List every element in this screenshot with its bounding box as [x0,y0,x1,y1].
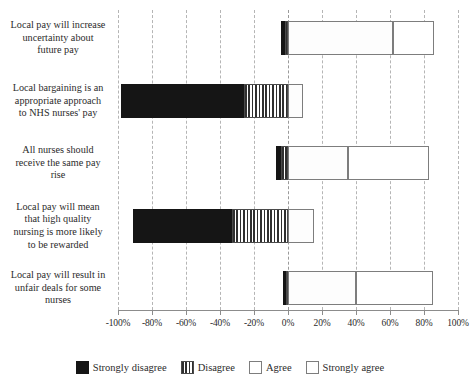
x-axis-tick [254,310,255,315]
x-axis-tick [458,310,459,315]
legend-item: Strongly disagree [76,361,167,374]
x-axis-tick [356,310,357,315]
bar-segment-agree [288,84,303,118]
x-axis-tick-label: 100% [435,318,474,328]
legend-item: Strongly agree [306,361,385,374]
x-axis-tick [152,310,153,315]
bar-row [0,271,460,305]
bar-segment-agree [288,146,348,180]
x-axis-tick [322,310,323,315]
legend-item: Disagree [181,361,235,374]
bar-segment-strongly-disagree [276,146,281,180]
legend-swatch-icon [181,361,194,374]
bar-segment-agree [288,21,393,55]
x-axis-tick [390,310,391,315]
bar-segment-strongly-disagree [283,271,286,305]
x-axis-tick [186,310,187,315]
bar-segment-strongly-agree [356,271,433,305]
bar-segment-strongly-disagree [133,209,232,243]
legend-swatch-icon [306,361,319,374]
x-axis-tick [118,310,119,315]
legend-label: Strongly agree [323,362,385,373]
x-axis-tick [220,310,221,315]
legend-label: Agree [266,362,292,373]
bar-row [0,209,460,243]
legend-label: Strongly disagree [93,362,167,373]
legend-swatch-icon [249,361,262,374]
bar-segment-agree [288,271,356,305]
bar-segment-strongly-agree [348,146,430,180]
x-axis-tick [288,310,289,315]
legend-label: Disagree [198,362,235,373]
bar-row [0,146,460,180]
bar-segment-strongly-disagree [281,21,284,55]
x-axis-tick [424,310,425,315]
bar-segment-disagree [281,146,288,180]
bar-segment-strongly-disagree [121,84,243,118]
bar-row [0,84,460,118]
bar-row [0,21,460,55]
legend-swatch-icon [76,361,89,374]
bar-segment-strongly-agree [393,21,434,55]
legend-item: Agree [249,361,292,374]
chart-legend: Strongly disagreeDisagreeAgreeStrongly a… [0,361,460,374]
bar-segment-disagree [232,209,288,243]
bar-segment-disagree [244,84,288,118]
bar-segment-agree [288,209,314,243]
